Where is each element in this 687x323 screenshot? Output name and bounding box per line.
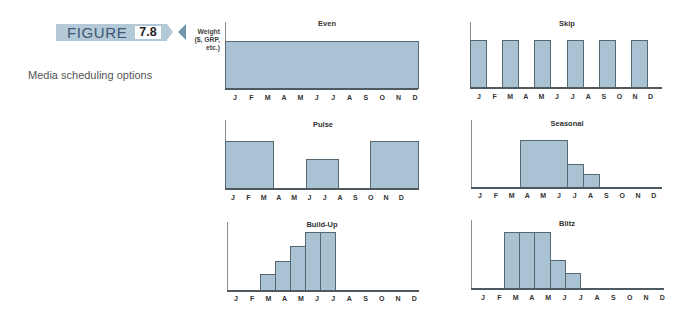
month-label: J — [478, 192, 482, 200]
month-label: A — [338, 194, 343, 202]
month-label: J — [315, 94, 319, 102]
bar — [567, 40, 584, 88]
x-axis — [471, 187, 662, 189]
y-axis-label-line: ($, GRP, — [170, 36, 220, 44]
bar — [504, 232, 520, 289]
bar — [583, 174, 600, 188]
chart-title: Pulse — [313, 120, 333, 130]
month-label: D — [399, 194, 404, 202]
bar — [470, 40, 487, 88]
month-label: A — [276, 194, 281, 202]
month-label: J — [323, 194, 327, 202]
month-label: F — [494, 192, 498, 200]
month-label: J — [233, 94, 237, 102]
month-label: F — [497, 294, 501, 302]
y-axis-label-line: Weight — [170, 28, 220, 36]
chart-title: Seasonal — [551, 119, 584, 129]
month-label: O — [368, 194, 373, 202]
month-label: J — [573, 192, 577, 200]
month-label: M — [291, 194, 297, 202]
bar — [306, 159, 339, 189]
month-label: J — [234, 295, 238, 303]
month-label: O — [617, 93, 622, 101]
month-label: O — [380, 94, 385, 102]
x-axis — [225, 88, 418, 90]
month-label: J — [477, 93, 481, 101]
bar — [290, 246, 306, 291]
y-axis-label: Weight ($, GRP, etc.) — [170, 28, 220, 52]
bar — [320, 232, 336, 291]
bar — [225, 141, 274, 189]
month-label: J — [308, 194, 312, 202]
figure-caption: Media scheduling options — [28, 69, 152, 81]
month-label: J — [481, 294, 485, 302]
month-label: M — [545, 294, 551, 302]
figure-number: 7.8 — [135, 26, 161, 39]
month-label: F — [492, 93, 496, 101]
month-label: N — [643, 294, 648, 302]
month-label: F — [246, 194, 250, 202]
y-axis — [227, 222, 228, 290]
month-label: N — [396, 94, 401, 102]
figure-page: FIGURE 7.8 Media scheduling options Weig… — [0, 0, 687, 323]
y-axis — [471, 120, 472, 187]
month-label: N — [395, 295, 400, 303]
bar — [370, 141, 419, 189]
bar — [520, 140, 568, 188]
bar — [550, 260, 566, 289]
month-label: S — [353, 194, 358, 202]
month-label: J — [331, 94, 335, 102]
month-label: M — [261, 194, 267, 202]
bar — [305, 232, 321, 291]
month-label: J — [555, 93, 559, 101]
bar — [225, 41, 419, 89]
month-label: M — [298, 94, 304, 102]
bar — [565, 273, 581, 289]
x-axis — [471, 288, 664, 290]
month-label: M — [513, 294, 519, 302]
month-label: J — [231, 194, 235, 202]
month-label: M — [540, 192, 546, 200]
chart-title: Skip — [559, 19, 575, 29]
month-label: A — [347, 94, 352, 102]
month-label: N — [635, 192, 640, 200]
figure-label: FIGURE — [67, 24, 127, 41]
bar — [567, 164, 584, 188]
chart-title: Build-Up — [306, 220, 337, 230]
month-label: J — [579, 294, 583, 302]
month-label: A — [595, 294, 600, 302]
month-label: M — [509, 192, 515, 200]
month-label: S — [604, 192, 609, 200]
month-label: N — [383, 194, 388, 202]
month-label: J — [331, 295, 335, 303]
month-label: A — [586, 93, 591, 101]
bar — [534, 232, 550, 289]
chart-title: Blitz — [559, 219, 575, 229]
bar — [631, 40, 648, 88]
month-label: M — [265, 295, 271, 303]
bar — [599, 40, 616, 88]
month-label: D — [648, 93, 653, 101]
month-label: S — [363, 295, 368, 303]
month-label: S — [364, 94, 369, 102]
bar — [275, 261, 291, 291]
bar — [260, 274, 276, 291]
bar — [502, 40, 519, 88]
month-label: D — [412, 295, 417, 303]
month-label: D — [651, 192, 656, 200]
x-axis — [470, 87, 662, 89]
month-label: A — [282, 94, 287, 102]
month-label: N — [632, 93, 637, 101]
month-label: S — [611, 294, 616, 302]
month-label: O — [627, 294, 632, 302]
x-axis — [227, 290, 419, 292]
y-axis-label-line: etc.) — [170, 44, 220, 52]
y-axis — [471, 220, 472, 288]
bar — [519, 232, 535, 289]
figure-banner: FIGURE 7.8 — [56, 24, 167, 41]
month-label: A — [588, 192, 593, 200]
month-label: J — [315, 295, 319, 303]
month-label: J — [571, 93, 575, 101]
x-axis — [225, 188, 419, 190]
bar — [534, 40, 551, 88]
